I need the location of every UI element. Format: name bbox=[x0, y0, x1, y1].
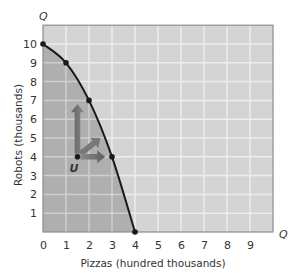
x-tick-label: 0 bbox=[40, 239, 47, 252]
x-tick-label: 9 bbox=[247, 239, 254, 252]
x-tick-label: 2 bbox=[86, 239, 93, 252]
y-tick-label: 3 bbox=[30, 170, 37, 183]
x-tick-label: 6 bbox=[178, 239, 185, 252]
y-tick-label: 6 bbox=[30, 113, 37, 126]
y-tick-label: 1 bbox=[30, 207, 37, 220]
y-tick-label: 9 bbox=[30, 57, 37, 70]
x-axis-title: Pizzas (hundred thousands) bbox=[80, 257, 225, 269]
x-tick-label: 3 bbox=[109, 239, 116, 252]
data-point-marker bbox=[86, 98, 92, 104]
data-point-marker bbox=[109, 154, 115, 160]
y-tick-label: 7 bbox=[30, 94, 37, 107]
point-u-label: U bbox=[70, 162, 79, 175]
y-tick-label: 10 bbox=[23, 38, 37, 51]
x-tick-label: 1 bbox=[63, 239, 70, 252]
y-axis-title: Robots (thousands) bbox=[12, 84, 24, 186]
x-axis-end-label: Q bbox=[279, 228, 288, 241]
x-tick-label: 7 bbox=[201, 239, 208, 252]
y-tick-label: 5 bbox=[30, 132, 37, 145]
x-tick-label: 4 bbox=[132, 239, 139, 252]
point-u-marker bbox=[75, 154, 81, 160]
data-point-marker bbox=[132, 229, 138, 235]
x-tick-label: 8 bbox=[224, 239, 231, 252]
y-tick-label: 4 bbox=[30, 151, 37, 164]
y-tick-label: 2 bbox=[30, 188, 37, 201]
y-tick-label: 8 bbox=[30, 76, 37, 89]
x-tick-label: 5 bbox=[155, 239, 162, 252]
y-axis-end-label: Q bbox=[39, 10, 48, 23]
data-point-marker bbox=[63, 60, 69, 66]
data-point-marker bbox=[40, 41, 46, 47]
ppf-chart: U 012345678912345678910QQPizzas (hundred… bbox=[0, 0, 301, 273]
